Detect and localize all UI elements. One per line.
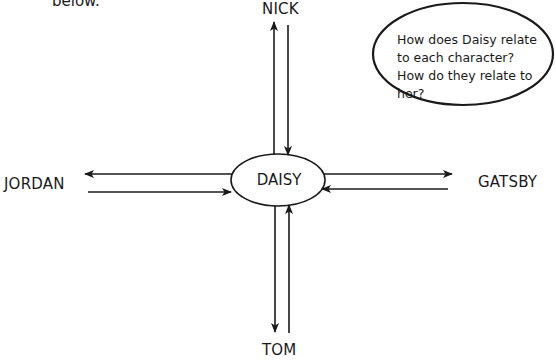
daisy-label: DAISY [246, 171, 312, 189]
gatsby-label: GATSBY [478, 173, 537, 191]
tom-label: TOM [262, 341, 297, 359]
callout-question: How does Daisy relate to each character?… [397, 31, 537, 103]
nick-label: NICK [262, 0, 299, 18]
jordan-label: JORDAN [4, 175, 65, 193]
